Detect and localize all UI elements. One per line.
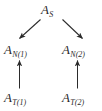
node-a-n2-subscript: N(2): [70, 50, 85, 59]
node-a-t2-subscript: T(2): [70, 98, 84, 107]
node-a-s-subscript: S: [49, 10, 53, 19]
node-a-t2-base: A: [62, 90, 70, 105]
node-a-n2-base: A: [62, 42, 70, 57]
node-a-n1-base: A: [4, 42, 12, 57]
edge-as-to-an2: [63, 20, 83, 39]
edge-as-to-an1: [20, 20, 41, 39]
node-a-n2: AN(2): [62, 43, 85, 59]
node-a-s: AS: [41, 3, 53, 19]
node-a-t2: AT(2): [62, 91, 84, 107]
node-a-n1: AN(1): [4, 43, 27, 59]
node-a-t1-subscript: T(1): [12, 98, 26, 107]
node-a-n1-subscript: N(1): [12, 50, 27, 59]
node-a-t1: AT(1): [4, 91, 26, 107]
commutative-diagram: AS AN(1) AN(2) AT(1) AT(2): [0, 0, 102, 111]
node-a-t1-base: A: [4, 90, 12, 105]
node-a-s-base: A: [41, 2, 49, 17]
